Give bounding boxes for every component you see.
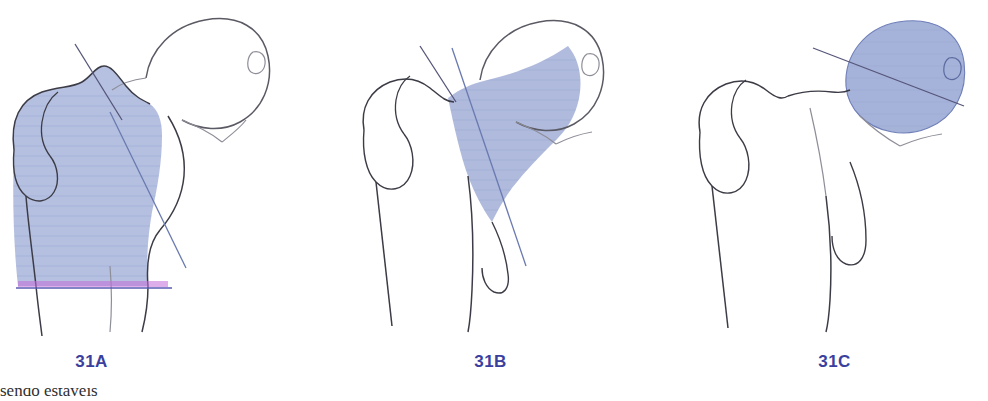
figure-caption-31c: 31C: [660, 352, 988, 372]
fovea-capitis-notch: [582, 54, 599, 76]
femur-illustration-31b: [330, 0, 659, 345]
lesser-trochanter-outline: [832, 162, 866, 265]
figure-board: 31A: [0, 0, 988, 401]
greater-trochanter-outline: [363, 76, 454, 189]
shaded-region-femoral-neck: [430, 46, 600, 222]
femoral-shaft-outline: [712, 162, 866, 332]
femoral-neck-outline: [788, 90, 850, 196]
figure-panel-31b: 31B: [330, 0, 659, 401]
femur-illustration-31c: [660, 0, 988, 345]
magenta-reference-line: [16, 281, 172, 288]
figure-caption-31a: 31A: [0, 352, 329, 372]
femoral-head-outline: [146, 19, 270, 129]
figure-panel-31a: 31A: [0, 0, 329, 401]
fovea-capitis-notch: [248, 52, 265, 74]
greater-trochanter-outline: [699, 80, 788, 193]
lesser-trochanter-outline: [482, 222, 508, 293]
clipped-body-text-line: sendo estáveis: [0, 388, 280, 401]
femur-illustration-31a: [0, 0, 329, 345]
figure-panel-31c: 31C: [660, 0, 988, 401]
figure-caption-31b: 31B: [330, 352, 659, 372]
clipped-body-text: sendo estáveis: [0, 388, 280, 401]
